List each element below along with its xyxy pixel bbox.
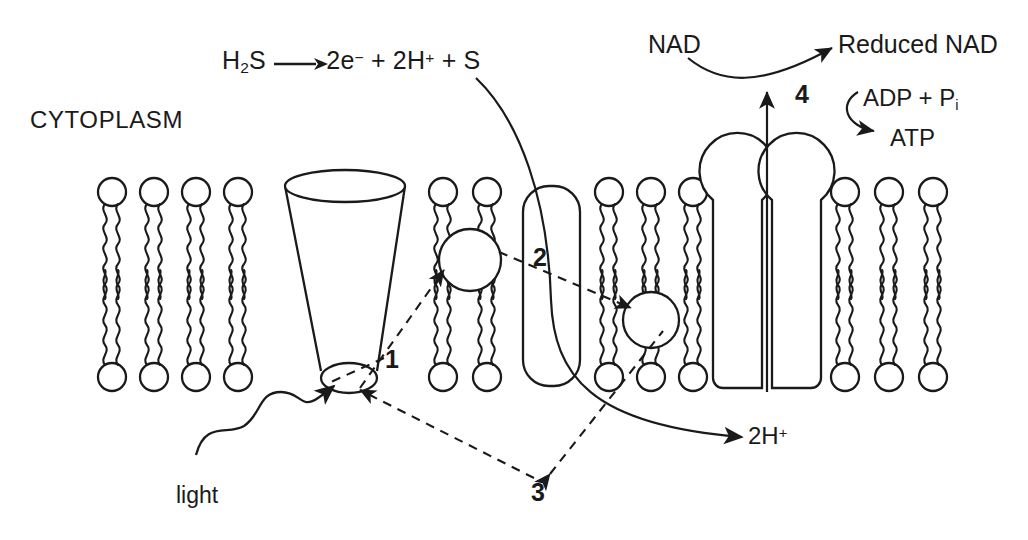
cytoplasm-label: CYTOPLASM	[30, 106, 183, 134]
reduced-nad-label: Reduced NAD	[838, 30, 998, 59]
top-trim	[0, 0, 1028, 14]
electron-carrier-upper	[439, 229, 501, 291]
light-label: light	[176, 482, 218, 509]
equation-arrow-icon	[272, 56, 330, 72]
dashed-3-to-left	[360, 390, 534, 478]
number-label-3: 3	[531, 478, 545, 507]
number-label-1: 1	[385, 345, 399, 374]
diagram-canvas: H2S 2e− + 2H+ + S CYTOPLASM NAD Reduced …	[0, 0, 1028, 540]
number-label-4: 4	[795, 80, 809, 109]
lipid-group-left	[98, 178, 252, 391]
adp-pi-label: ADP + Pi	[863, 84, 959, 113]
h2s-equation: H2S 2e− + 2H+ + S	[222, 46, 480, 77]
membrane-diagram-svg	[0, 0, 1028, 540]
number-label-2: 2	[533, 243, 547, 272]
light-arrow	[196, 386, 334, 455]
lipid-group-right-mid	[595, 178, 707, 391]
lipid-group-far-right	[831, 178, 947, 391]
nad-label: NAD	[648, 30, 701, 59]
atp-label: ATP	[890, 124, 935, 152]
nad-reduction-arrow	[688, 48, 832, 78]
two-h-plus-label: 2H+	[748, 422, 787, 450]
electron-carrier-lower	[623, 292, 679, 348]
